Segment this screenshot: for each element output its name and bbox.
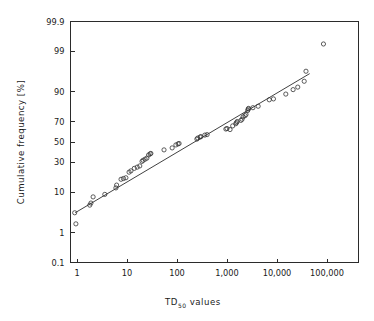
x-tick-label: 1 [74,268,79,278]
x-axis-ticks [77,259,327,263]
y-tick-label: 99 [54,46,64,56]
data-point-marker [302,79,306,83]
data-point-marker [267,98,271,102]
data-point-marker [115,183,119,187]
y-tick-label: 1 [59,228,64,238]
data-point-marker [284,92,288,96]
y-tick-label: 99.9 [46,17,64,27]
chart-figure: 1101001,00010,000100,000 0.1110305070909… [0,0,374,321]
x-tick-label: 10 [122,268,132,278]
y-tick-label: 50 [54,137,64,147]
y-tick-label: 10 [54,187,64,197]
y-tick-label: 30 [54,157,64,167]
y-axis-title-text: Cumulative frequency [%] [16,80,26,205]
regression-line [75,74,309,213]
data-point-marker [73,211,77,215]
data-point-marker [256,104,260,108]
plot-frame [71,22,359,263]
data-point-marker [304,69,308,73]
data-point-marker [124,176,128,180]
x-tick-label: 100,000 [310,268,344,278]
y-tick-label: 0.1 [51,258,64,268]
y-axis-title: Cumulative frequency [%] [16,80,26,205]
x-tick-label: 1,000 [215,268,238,278]
x-tick-label: 100 [169,268,185,278]
data-point-marker [296,85,300,89]
data-point-marker [91,195,95,199]
svg-text:TD50 values: TD50 values [164,297,221,309]
data-point-marker [321,42,325,46]
data-point-marker [291,88,295,92]
data-points [73,42,326,226]
x-tick-label: 10,000 [263,268,292,278]
data-point-marker [74,222,78,226]
x-axis-title-subscript: 50 [178,302,187,309]
probability-plot: 1101001,00010,000100,000 0.1110305070909… [0,0,374,321]
data-point-marker [138,164,142,168]
y-tick-label: 70 [54,117,64,127]
y-axis-tick-labels: 0.1110305070909999.9 [46,17,64,268]
x-axis-title: TD50 values [164,297,221,309]
x-axis-title-tail: values [187,297,221,307]
y-tick-label: 90 [54,87,64,97]
data-point-marker [170,146,174,150]
y-axis-ticks [71,22,75,263]
x-axis-title-base: TD [164,297,178,307]
data-point-marker [162,148,166,152]
x-axis-tick-labels: 1101001,00010,000100,000 [74,268,344,278]
data-point-marker [271,97,275,101]
